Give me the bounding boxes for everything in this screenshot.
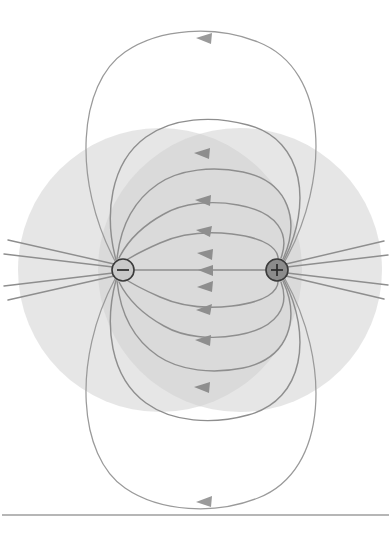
dipole-figure: Electric field lines of an electric dipo… [0, 0, 391, 533]
positive-charge[interactable] [266, 259, 288, 281]
arrowhead-lower-1 [196, 496, 212, 507]
negative-charge[interactable] [112, 259, 134, 281]
arrowhead-upper-1 [196, 33, 212, 44]
dipole-diagram-canvas [0, 0, 391, 533]
